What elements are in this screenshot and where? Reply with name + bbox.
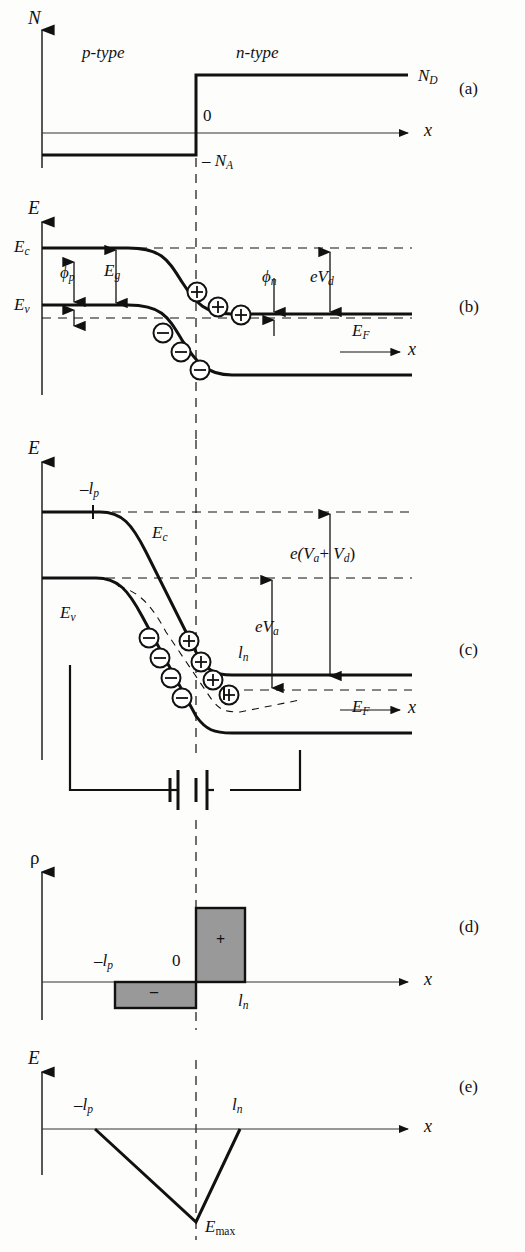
- panel-e-depletion-p-label: –lp: [74, 1096, 93, 1116]
- panel-a-x-axis-label: x: [424, 121, 432, 139]
- panel-b-conduction-band-label: Ec: [14, 238, 30, 258]
- panel-c-fermi-level-label: EF: [352, 698, 369, 718]
- panel-c-x-axis-label: x: [408, 698, 416, 716]
- panel-e-x-axis-label: x: [424, 1117, 432, 1135]
- panel-e-max-field-label: Emax: [205, 1218, 235, 1238]
- panel-c-measure-arrows: [272, 514, 330, 688]
- panel-a-doping-curve: [42, 75, 408, 155]
- panel-b-valence-band-label: Ev: [14, 296, 30, 316]
- panel-e-y-axis-label: E: [28, 1048, 40, 1067]
- panel-c-battery-circuit: [70, 665, 300, 810]
- panel-b-built-in-potential-label: eVd: [310, 268, 334, 288]
- panel-d-depletion-p-label: –lp: [94, 952, 113, 972]
- panel-b-charge-circles: [154, 283, 251, 380]
- panel-c-charge-circles: [140, 629, 239, 708]
- panel-d-y-axis-label: ρ: [30, 848, 39, 867]
- panel-b-y-axis-label: E: [28, 198, 40, 217]
- panel-a-y-axis-label: N: [28, 8, 41, 27]
- panel-c-valence-band-label: Ev: [60, 604, 76, 624]
- panel-tag-b: (b): [459, 298, 479, 315]
- panel-tag-e: (e): [459, 1078, 478, 1095]
- panel-c-conduction-band-label: Ec: [152, 524, 168, 544]
- panel-b-fermi-level-label: EF: [352, 322, 369, 342]
- panel-c-reference-dashes: [42, 512, 412, 690]
- panel-c-axes: [42, 462, 400, 760]
- panel-b-phi-p-label: ϕp: [60, 264, 75, 284]
- figure-canvas: N x p-type n-type ND 0 – NA E x Ec Ev ϕp…: [0, 0, 525, 1252]
- panel-a-donor-concentration-label: ND: [418, 67, 438, 87]
- panel-tag-d: (d): [459, 918, 479, 935]
- panel-b-band-gap-label: Eg: [104, 262, 120, 282]
- panel-d-x-axis-label: x: [424, 970, 432, 988]
- panel-tag-c: (c): [459, 641, 478, 658]
- panel-c-applied-bias-label: eVa: [255, 618, 279, 638]
- panel-e-field-profile: [95, 1129, 240, 1222]
- panel-tag-a: (a): [459, 80, 478, 97]
- panel-d-origin-label: 0: [172, 952, 181, 969]
- panel-b-phi-n-label: ϕn: [262, 268, 277, 288]
- panel-e-depletion-n-label: ln: [232, 1096, 243, 1116]
- panel-d-depletion-n-label: ln: [238, 992, 249, 1012]
- panel-a-region-p-label: p-type: [82, 44, 124, 61]
- panel-c-depletion-p-label: –lp: [80, 480, 99, 500]
- panel-d-positive-sign: +: [216, 932, 225, 948]
- panel-b-x-axis-label: x: [408, 340, 416, 358]
- panel-d-negative-sign: –: [150, 984, 158, 1000]
- panel-a-acceptor-concentration-label: – NA: [202, 152, 233, 172]
- panel-c-y-axis-label: E: [28, 438, 40, 457]
- panel-c-depletion-n-label: ln: [238, 644, 249, 664]
- panel-a-region-n-label: n-type: [236, 44, 278, 61]
- panel-c-total-bias-label: e(Va+ Vd): [290, 545, 355, 565]
- panel-a-origin-label: 0: [203, 107, 212, 124]
